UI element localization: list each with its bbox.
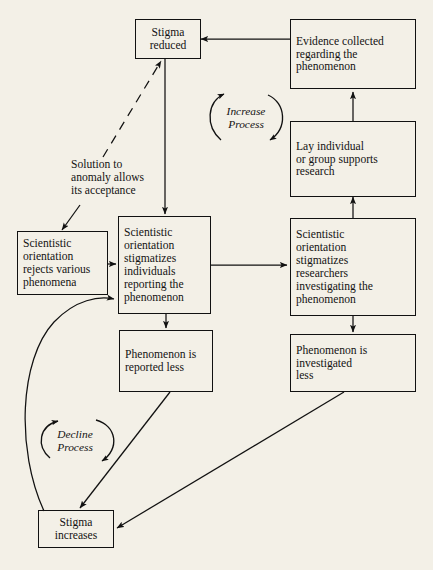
- edge-solution-to-stigma-reduced: [103, 61, 161, 157]
- node-stigma-increases[interactable]: Stigma increases: [38, 510, 114, 548]
- label-increase-process: Increase Process: [218, 105, 274, 131]
- diagram-canvas: Stigma reduced Evidence collected regard…: [0, 0, 433, 570]
- edge-investigated-less-to-stigma-increases: [117, 392, 344, 528]
- node-reported-less[interactable]: Phenomenon is reported less: [119, 330, 213, 392]
- label-decline-process: Decline Process: [47, 428, 103, 454]
- node-investigated-less[interactable]: Phenomenon is investigated less: [290, 334, 416, 392]
- node-lay-individual[interactable]: Lay individual or group supports researc…: [290, 121, 416, 197]
- node-stigmatizes-researchers[interactable]: Scientistic orientation stigmatizes rese…: [290, 218, 416, 316]
- node-stigma-reduced[interactable]: Stigma reduced: [135, 19, 201, 59]
- node-stigmatizes-individuals[interactable]: Scientistic orientation stigmatizes indi…: [118, 216, 211, 314]
- edge-stigma-increases-to-stigmatizes-individuals: [25, 298, 114, 511]
- node-evidence-collected[interactable]: Evidence collected regarding the phenome…: [290, 19, 416, 89]
- node-orientation-rejects[interactable]: Scientistic orientation rejects various …: [17, 231, 108, 295]
- label-solution-to-anomaly: Solution to anomaly allows its acceptanc…: [71, 158, 176, 198]
- edge-solution-to-orientation-rejects: [62, 205, 80, 230]
